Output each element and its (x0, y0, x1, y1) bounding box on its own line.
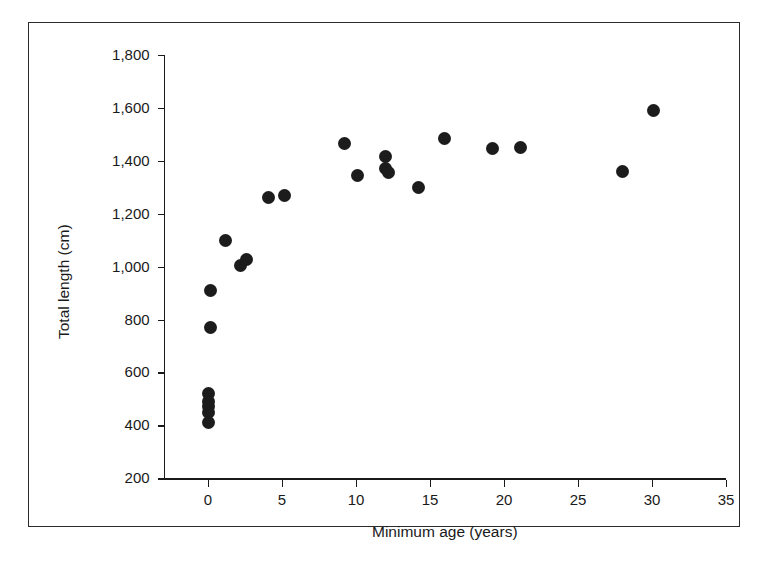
data-point (438, 132, 451, 145)
y-axis-line (164, 55, 165, 478)
x-axis-tick-label: 20 (474, 492, 534, 507)
x-axis-tick-label: 30 (622, 492, 682, 507)
y-axis-tick (158, 478, 164, 479)
x-axis-tick-label: 0 (178, 492, 238, 507)
y-axis-tick-label: 600 (84, 364, 150, 379)
data-point (647, 104, 660, 117)
y-axis-tick-label: 1,600 (84, 100, 150, 115)
data-point (240, 253, 253, 266)
x-axis-tick (578, 480, 579, 487)
x-axis-tick (208, 480, 209, 487)
data-point (278, 189, 291, 202)
x-axis-tick (504, 480, 505, 487)
y-axis-tick-label: 1,000 (84, 259, 150, 274)
y-axis-tick-label: 400 (84, 417, 150, 432)
data-point (338, 137, 351, 150)
data-point (202, 387, 215, 400)
x-axis-tick (652, 480, 653, 487)
y-axis-tick (158, 372, 164, 373)
y-axis-label: Total length (cm) (56, 224, 72, 339)
y-axis-tick (158, 214, 164, 215)
data-point (616, 165, 629, 178)
data-point (514, 141, 527, 154)
y-axis-tick-label: 200 (84, 470, 150, 485)
y-axis-tick-label: 1,400 (84, 153, 150, 168)
data-point (262, 191, 275, 204)
x-axis-tick-label: 10 (326, 492, 386, 507)
data-point (351, 169, 364, 182)
y-axis-tick (158, 55, 164, 56)
scatter-plot: 2004006008001,0001,2001,4001,6001,800051… (0, 0, 769, 582)
x-axis-tick (356, 480, 357, 487)
y-axis-tick (158, 425, 164, 426)
y-axis-tick (158, 267, 164, 268)
x-axis-label: Minimum age (years) (124, 524, 766, 540)
x-axis-tick (430, 480, 431, 487)
data-point (219, 234, 232, 247)
x-axis-tick-label: 35 (696, 492, 756, 507)
y-axis-tick-label: 1,800 (84, 47, 150, 62)
y-axis-tick (158, 108, 164, 109)
y-axis-tick (158, 161, 164, 162)
data-point (382, 166, 395, 179)
data-point (412, 181, 425, 194)
x-axis-tick-label: 5 (252, 492, 312, 507)
x-axis-tick-label: 25 (548, 492, 608, 507)
x-axis-tick-label: 15 (400, 492, 460, 507)
data-point (204, 284, 217, 297)
y-axis-tick-label: 800 (84, 312, 150, 327)
y-axis-tick (158, 320, 164, 321)
figure-root: 2004006008001,0001,2001,4001,6001,800051… (0, 0, 769, 582)
x-axis-line (164, 478, 726, 479)
data-point (204, 321, 217, 334)
x-axis-tick (726, 480, 727, 487)
x-axis-tick (282, 480, 283, 487)
y-axis-tick-label: 1,200 (84, 206, 150, 221)
data-point (486, 142, 499, 155)
